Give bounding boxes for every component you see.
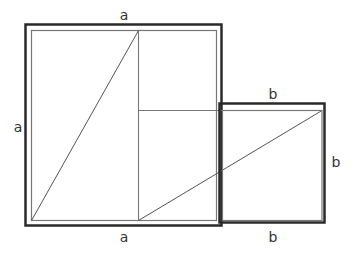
small-square-inner [223, 111, 323, 221]
diagonal-right [139, 111, 323, 221]
label-big-top: a [120, 7, 129, 23]
label-small-bottom: b [269, 229, 278, 245]
label-big-bottom: a [120, 229, 129, 245]
diagram-canvas: a a a b b b [0, 0, 354, 254]
diagonal-left [32, 31, 139, 221]
big-square-outer [26, 25, 222, 226]
label-small-top: b [269, 86, 278, 102]
label-big-left: a [14, 119, 23, 135]
big-square-inner [32, 31, 217, 221]
label-small-right: b [332, 154, 341, 170]
